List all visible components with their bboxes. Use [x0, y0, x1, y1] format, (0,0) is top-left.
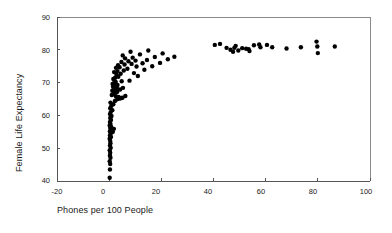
data-point — [213, 43, 217, 47]
data-points — [107, 39, 336, 180]
data-point — [270, 45, 274, 49]
data-point — [119, 60, 123, 64]
data-point — [132, 71, 136, 75]
data-point — [142, 68, 146, 72]
data-point — [119, 79, 123, 83]
scatter-plot-figure: Female Life Expectancy Phones per 100 Pe… — [0, 0, 392, 233]
data-point — [284, 46, 288, 50]
data-point — [240, 46, 244, 50]
data-point — [121, 86, 125, 90]
data-point — [125, 67, 129, 71]
data-point — [146, 48, 150, 52]
data-point — [145, 58, 149, 62]
data-point — [130, 55, 134, 59]
data-point — [218, 42, 222, 46]
data-point — [107, 159, 111, 163]
data-point — [150, 64, 154, 68]
data-point — [247, 49, 251, 53]
data-point — [314, 39, 318, 43]
data-point — [158, 61, 162, 65]
data-point — [315, 44, 319, 48]
axis-ticks — [57, 17, 370, 181]
data-point — [107, 176, 111, 180]
data-point — [134, 64, 138, 68]
data-point — [140, 61, 144, 65]
axis-frame — [57, 17, 370, 181]
data-point — [153, 55, 157, 59]
data-point — [138, 52, 142, 56]
data-point — [116, 63, 120, 67]
data-point — [333, 44, 337, 48]
data-point — [160, 51, 164, 55]
data-point — [316, 51, 320, 55]
data-point — [128, 50, 132, 54]
data-point — [126, 59, 130, 63]
data-point — [108, 100, 112, 104]
data-point — [166, 57, 170, 61]
data-point — [136, 74, 140, 78]
data-point — [123, 94, 127, 98]
data-point — [231, 50, 235, 54]
data-point — [172, 54, 176, 58]
data-point — [236, 48, 240, 52]
plot-area — [0, 0, 392, 233]
data-point — [127, 78, 131, 82]
data-point — [224, 46, 228, 50]
data-point — [121, 53, 125, 57]
data-point — [299, 45, 303, 49]
data-point — [258, 45, 262, 49]
data-point — [252, 43, 256, 47]
data-point — [233, 44, 237, 48]
data-point — [265, 43, 269, 47]
data-point — [108, 167, 112, 171]
